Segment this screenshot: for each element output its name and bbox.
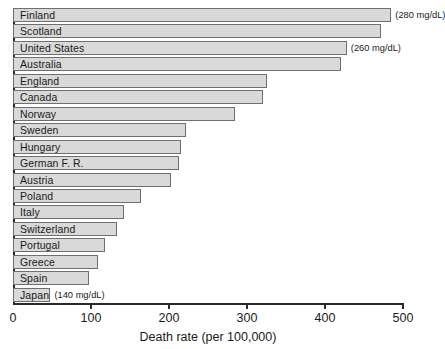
bar-annotation: (140 mg/dL): [54, 288, 104, 302]
x-tick-label: 500: [393, 311, 414, 325]
bar: [13, 140, 181, 154]
bar: [13, 156, 179, 170]
bar-annotation: (280 mg/dL): [395, 8, 445, 22]
bar-row: Poland: [13, 189, 443, 203]
bar-row: England: [13, 74, 443, 88]
bar-row: Australia: [13, 57, 443, 71]
bar-row: Portugal: [13, 238, 443, 252]
x-axis-title: Death rate (per 100,000): [13, 330, 403, 344]
x-tick: [168, 303, 170, 309]
bar: [13, 90, 263, 104]
bar-row: Finland(280 mg/dL): [13, 8, 443, 22]
x-axis-line: [13, 303, 403, 305]
bar: [13, 255, 98, 269]
bar: [13, 74, 267, 88]
bar-row: United States(260 mg/dL): [13, 41, 443, 55]
bar: [13, 57, 341, 71]
x-tick-label: 0: [10, 311, 17, 325]
bar-row: Norway: [13, 107, 443, 121]
plot-area: Finland(280 mg/dL)ScotlandUnited States(…: [13, 8, 443, 304]
bar: [13, 288, 50, 302]
x-tick: [90, 303, 92, 309]
bar-row: Sweden: [13, 123, 443, 137]
bar: [13, 173, 171, 187]
x-tick-label: 300: [237, 311, 258, 325]
bar-row: Scotland: [13, 24, 443, 38]
bar-row: Greece: [13, 255, 443, 269]
x-tick-label: 100: [81, 311, 102, 325]
bar-row: Canada: [13, 90, 443, 104]
bar: [13, 205, 124, 219]
x-axis: 0100200300400500 Death rate (per 100,000…: [13, 303, 403, 349]
bar: [13, 8, 391, 22]
bar-row: Japan(140 mg/dL): [13, 288, 443, 302]
bar: [13, 238, 105, 252]
x-tick: [246, 303, 248, 309]
bar-row: Hungary: [13, 140, 443, 154]
x-tick-label: 200: [159, 311, 180, 325]
x-tick-label: 400: [315, 311, 336, 325]
bar-annotation: (260 mg/dL): [351, 41, 401, 55]
bar-row: German F. R.: [13, 156, 443, 170]
bar-row: Spain: [13, 271, 443, 285]
bar-row: Italy: [13, 205, 443, 219]
bar: [13, 222, 117, 236]
bar: [13, 41, 347, 55]
bar-row: Austria: [13, 173, 443, 187]
x-tick: [324, 303, 326, 309]
bar: [13, 189, 141, 203]
bar: [13, 107, 235, 121]
bar: [13, 123, 186, 137]
bar-row: Switzerland: [13, 222, 443, 236]
x-tick: [402, 303, 404, 309]
bar: [13, 24, 381, 38]
bar: [13, 271, 89, 285]
